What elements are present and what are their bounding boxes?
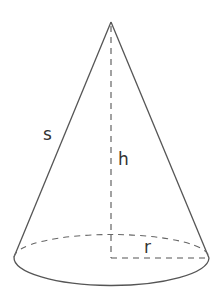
- right-slant-edge: [111, 22, 209, 258]
- cone-diagram: s h r: [0, 0, 218, 299]
- cone-figure: s h r: [0, 0, 218, 299]
- left-slant-edge: [14, 22, 111, 257]
- label-height: h: [118, 149, 129, 169]
- label-slant-height: s: [43, 124, 52, 144]
- label-radius: r: [144, 237, 151, 257]
- base-ellipse-front: [14, 257, 209, 286]
